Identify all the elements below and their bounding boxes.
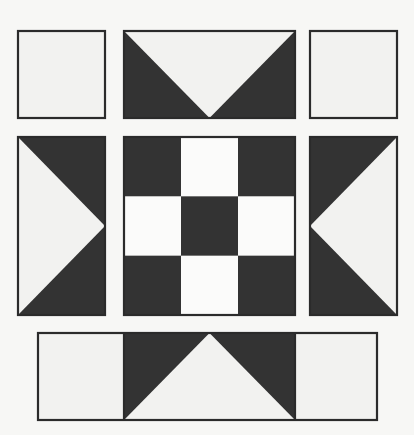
top-right-square-fill bbox=[310, 31, 397, 118]
bottom-left-square-fill bbox=[38, 333, 124, 420]
unit-top-center-geese[interactable] bbox=[124, 31, 295, 118]
unit-top-left-square[interactable] bbox=[18, 31, 105, 118]
nine-patch-cell-r2-c1 bbox=[124, 196, 182, 256]
nine-patch-cell-r1-c1 bbox=[124, 137, 182, 197]
middle-row-group bbox=[18, 137, 397, 316]
nine-patch-cell-r3-c2 bbox=[181, 256, 239, 316]
unit-middle-left-geese[interactable] bbox=[18, 137, 105, 315]
top-row-group bbox=[18, 31, 397, 118]
bottom-row-group[interactable] bbox=[38, 333, 377, 420]
nine-patch-cells bbox=[124, 137, 296, 316]
bottom-right-square-fill bbox=[295, 333, 377, 420]
nine-patch-cell-r1-c3 bbox=[238, 137, 296, 197]
quilt-block-drawing bbox=[0, 0, 414, 435]
top-left-square-fill bbox=[18, 31, 105, 118]
nine-patch-cell-r2-c2 bbox=[181, 196, 239, 256]
quilt-block-canvas bbox=[0, 0, 414, 435]
nine-patch-cell-r3-c3 bbox=[238, 256, 296, 316]
unit-center-nine-patch[interactable] bbox=[124, 137, 296, 316]
nine-patch-cell-r2-c3 bbox=[238, 196, 296, 256]
nine-patch-cell-r3-c1 bbox=[124, 256, 182, 316]
unit-top-right-square[interactable] bbox=[310, 31, 397, 118]
unit-middle-right-geese[interactable] bbox=[310, 137, 397, 315]
nine-patch-cell-r1-c2 bbox=[181, 137, 239, 197]
